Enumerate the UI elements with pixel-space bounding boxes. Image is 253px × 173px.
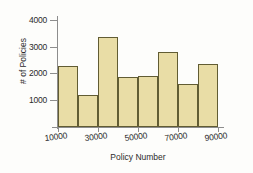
y-tick-label-3000: 3000 [29, 42, 47, 52]
bar-bin-7 [178, 84, 198, 127]
bar-bin-3 [98, 37, 118, 127]
y-tick-label-4000: 4000 [29, 15, 47, 25]
bar-bin-6 [158, 52, 178, 127]
bar-bin-2 [78, 95, 98, 127]
bar-bin-4 [118, 77, 138, 127]
plot-area [58, 20, 218, 127]
x-tick-label-10000: 10000 [44, 130, 68, 143]
bar-bin-5 [138, 76, 158, 127]
x-tick-label-50000: 50000 [124, 130, 148, 143]
x-tick-label-30000: 30000 [84, 130, 108, 143]
bar-bin-8 [198, 64, 218, 127]
x-axis-label: Policy Number [58, 152, 218, 162]
y-tick-label-2000: 2000 [29, 68, 47, 78]
y-tick-label-1000: 1000 [29, 95, 47, 105]
x-tick-label-90000: 90000 [204, 130, 228, 143]
histogram-figure: # of Policies 4000 3000 2000 1000 10000 … [0, 0, 253, 173]
y-axis-label: # of Policies [18, 16, 28, 106]
x-tick-label-70000: 70000 [164, 130, 188, 143]
bar-bin-1 [58, 66, 78, 127]
